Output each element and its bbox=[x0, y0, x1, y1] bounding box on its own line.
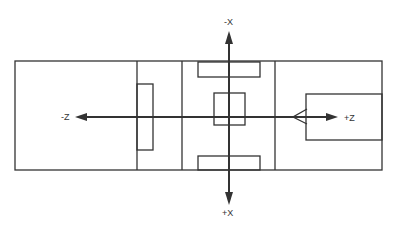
axes-diagram: -X +X -Z +Z bbox=[0, 0, 396, 228]
label-x-positive: +X bbox=[222, 208, 233, 218]
z-positive-arrowhead-icon bbox=[326, 113, 338, 121]
x-negative-arrowhead-icon bbox=[225, 31, 233, 44]
z-negative-arrowhead-icon bbox=[75, 113, 87, 121]
x-positive-arrowhead-icon bbox=[225, 192, 233, 205]
label-x-negative: -X bbox=[224, 17, 233, 27]
label-z-positive: +Z bbox=[344, 113, 355, 123]
label-z-negative: -Z bbox=[61, 112, 70, 122]
